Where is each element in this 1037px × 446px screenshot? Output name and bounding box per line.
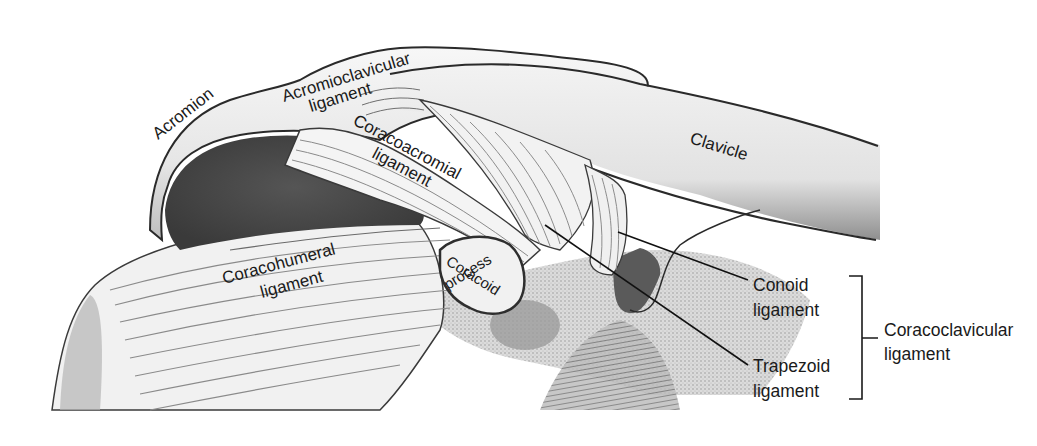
label-conoid-line2: ligament (753, 300, 819, 320)
coracoclavicular-bracket (849, 276, 878, 399)
humerus-shaft-shadow (60, 295, 102, 410)
label-coracoclavicular-line2: ligament (884, 344, 950, 364)
label-trapezoid-line2: ligament (753, 381, 819, 401)
anatomy-figure: Acromion Acromioclavicular ligament Cora… (0, 0, 1037, 446)
label-conoid-line1: Conoid (753, 275, 808, 295)
label-trapezoid-line1: Trapezoid (753, 356, 830, 376)
shoulder-illustration: Acromion Acromioclavicular ligament Cora… (0, 0, 1037, 446)
conoid-ligament-band (585, 165, 627, 275)
label-coracoclavicular-line1: Coracoclavicular (884, 320, 1014, 340)
